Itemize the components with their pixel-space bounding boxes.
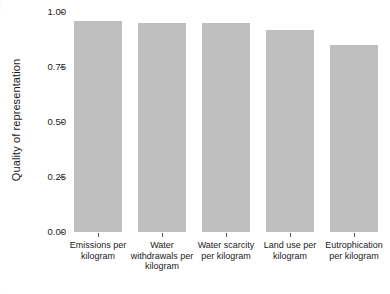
y-tick-mark	[60, 67, 64, 68]
x-tick-label: Land use per kilogram	[258, 240, 322, 261]
x-tick-mark	[354, 233, 355, 237]
bar	[138, 23, 185, 232]
y-tick-mark	[60, 12, 64, 13]
y-axis-title-text: Quality of representation	[10, 59, 22, 181]
bar	[202, 23, 249, 232]
bar-chart: Quality of representation 0.000.250.500.…	[0, 0, 390, 294]
bar	[330, 45, 377, 232]
x-tick-mark	[162, 233, 163, 237]
bar	[266, 30, 313, 232]
x-tick-mark	[98, 233, 99, 237]
y-tick-mark	[60, 122, 64, 123]
x-tick-label: Eutrophication per kilogram	[322, 240, 386, 261]
plot-area	[66, 12, 386, 232]
x-tick-label: Water scarcity per kilogram	[194, 240, 258, 261]
x-tick-mark	[290, 233, 291, 237]
x-tick-label: Water withdrawals per kilogram	[130, 240, 194, 272]
bar	[74, 21, 121, 232]
y-axis-title: Quality of representation	[4, 0, 28, 240]
y-tick-mark	[60, 177, 64, 178]
y-tick-mark	[60, 232, 64, 233]
x-tick-label: Emissions per kilogram	[66, 240, 130, 261]
bars-layer	[66, 12, 386, 232]
x-tick-mark	[226, 233, 227, 237]
